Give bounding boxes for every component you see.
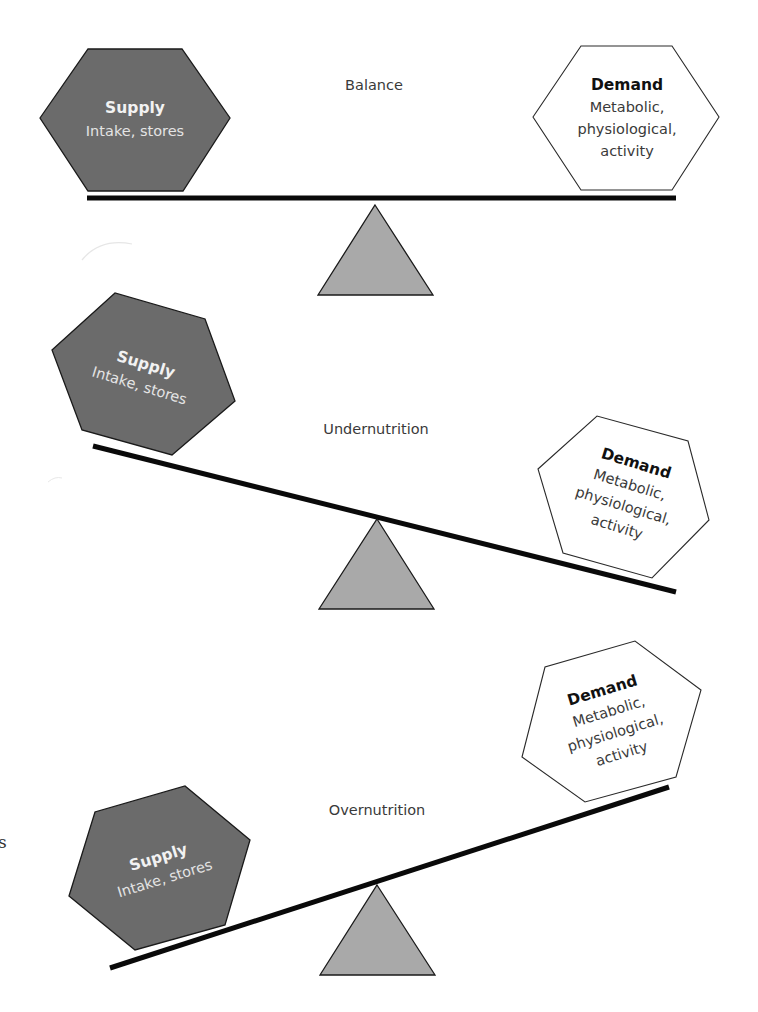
supply-hexagon: Supply Intake, stores <box>40 49 230 191</box>
demand-description-line-2: physiological, <box>577 121 676 137</box>
supply-description: Intake, stores <box>86 123 184 139</box>
nutrition-balance-diagram: Balance Supply Intake, stores Demand Met… <box>0 0 758 1012</box>
demand-description-line-1: Metabolic, <box>590 99 665 115</box>
hexagon-shape <box>522 641 701 802</box>
fulcrum-triangle <box>319 519 434 609</box>
scan-artifact <box>82 243 132 260</box>
scan-artifact <box>48 478 62 483</box>
hexagon-shape <box>533 46 719 190</box>
panel-title-overnutrition: Overnutrition <box>329 802 425 818</box>
fulcrum-triangle <box>318 205 433 295</box>
panel-overnutrition: Overnutrition Supply Intake, stores Dema… <box>69 641 701 975</box>
demand-title: Demand <box>591 76 663 94</box>
demand-hexagon: Demand Metabolic, physiological, activit… <box>522 641 701 802</box>
hexagon-shape <box>52 293 235 455</box>
demand-hexagon: Demand Metabolic, physiological, activit… <box>538 416 709 578</box>
demand-hexagon: Demand Metabolic, physiological, activit… <box>533 46 719 190</box>
edge-text-fragment: s <box>0 832 7 852</box>
panel-title-balance: Balance <box>345 77 403 93</box>
panel-title-undernutrition: Undernutrition <box>323 421 428 437</box>
supply-hexagon: Supply Intake, stores <box>69 786 250 950</box>
demand-description-line-3: activity <box>600 143 654 159</box>
hexagon-shape <box>69 786 250 950</box>
supply-hexagon: Supply Intake, stores <box>52 293 235 455</box>
panel-balance: Balance Supply Intake, stores Demand Met… <box>40 46 719 295</box>
hexagon-shape <box>40 49 230 191</box>
supply-title: Supply <box>105 99 165 117</box>
fulcrum-triangle <box>320 885 435 975</box>
panel-undernutrition: Undernutrition Supply Intake, stores Dem… <box>52 293 709 609</box>
